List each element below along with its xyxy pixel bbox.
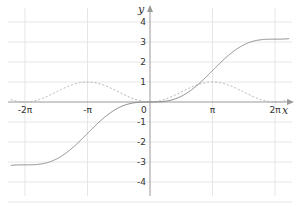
y-tick-label: -4 [137,177,146,187]
y-tick-label: 4 [140,17,146,27]
y-tick-label: 1 [140,77,146,87]
origin-label: 0 [141,105,147,115]
x-tick-label: -2π [18,105,33,115]
y-tick-label: -2 [137,137,146,147]
y-axis-arrow-icon [147,5,153,12]
x-tick-label: -π [83,105,92,115]
y-tick-label: -3 [137,157,146,167]
y-tick-label: 3 [140,37,146,47]
y-tick-label: 2 [140,57,146,67]
x-tick-label: π [210,105,216,115]
x-axis-label: x [282,104,289,117]
axes [8,5,294,196]
function-plot: -2π-ππ2π4321-1-2-3-4 x y 0 [0,0,296,207]
y-axis-label: y [137,3,145,16]
y-tick-label: -1 [137,117,146,127]
x-tick-label: 2π [269,105,281,115]
